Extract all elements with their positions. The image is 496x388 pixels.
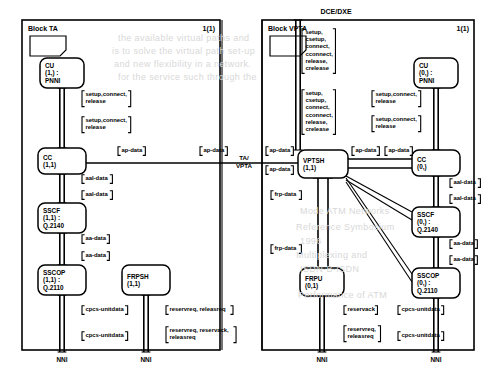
process-sscf-ta[interactable]: SSCF(1,1) :Q.2140 bbox=[38, 203, 86, 233]
process-cu-vpta[interactable]: CU(0,) :PNNI bbox=[414, 58, 458, 88]
bracket-right-icon bbox=[143, 147, 146, 156]
bracket-left-icon bbox=[344, 306, 347, 315]
signal-name: release bbox=[375, 123, 396, 129]
background-bleed-text: ISDN-B-ISDN bbox=[300, 264, 359, 274]
signal-name: ap-data bbox=[269, 166, 291, 172]
signal-name: aa-data bbox=[85, 235, 106, 241]
signal-label-ta-cc-ap-out: ap-data bbox=[118, 147, 145, 156]
signal-label-ta-ap-far: ap-data bbox=[200, 147, 227, 156]
signal-label-vpta-ap-mid-2: ap-data bbox=[385, 147, 412, 156]
signal-name: csetup, bbox=[305, 36, 326, 42]
signal-label-ta-res-1: reservreq, releasreq bbox=[166, 306, 233, 315]
bracket-right-icon bbox=[291, 147, 294, 156]
signal-label-vpta-aal-1: aal-data bbox=[450, 179, 480, 188]
process-sscf-vpta[interactable]: SSCF(0,) :Q.2140 bbox=[412, 207, 460, 237]
bracket-right-icon bbox=[333, 90, 336, 135]
process-label: PNNI bbox=[419, 77, 434, 84]
signal-name: release bbox=[85, 124, 106, 130]
process-cu-ta[interactable]: CU(1,) :PNNI bbox=[40, 58, 84, 88]
signal-label-ta-cu-cc-1: setup,connect,release bbox=[82, 91, 131, 107]
signal-name: releasreq bbox=[169, 334, 196, 340]
signal-name: cconnect, bbox=[305, 51, 333, 57]
bracket-right-icon bbox=[233, 327, 236, 343]
bracket-left-icon bbox=[271, 191, 274, 200]
signal-name: connect, bbox=[305, 104, 330, 110]
signal-name: aal-data bbox=[453, 195, 476, 201]
process-label: FRPU bbox=[305, 275, 323, 282]
background-bleed-text: Multiplexing and bbox=[296, 250, 367, 260]
signal-name: cpcs-unitdata bbox=[85, 332, 124, 338]
bracket-left-icon bbox=[82, 191, 85, 200]
bracket-left-icon bbox=[398, 306, 401, 315]
process-label: CU bbox=[419, 62, 429, 69]
bracket-left-icon bbox=[266, 166, 269, 175]
signal-name: release bbox=[375, 98, 396, 104]
bracket-right-icon bbox=[475, 256, 478, 265]
bracket-right-icon bbox=[418, 116, 421, 132]
bracket-right-icon bbox=[478, 179, 481, 188]
process-label: Q.2110 bbox=[43, 284, 64, 292]
bracket-right-icon bbox=[107, 252, 110, 261]
signal-label-vpta-cu-cc-1: setup,connect,release bbox=[372, 91, 421, 107]
bracket-left-icon bbox=[450, 195, 453, 204]
bracket-left-icon bbox=[372, 116, 375, 132]
process-label: SSCOP bbox=[43, 269, 66, 276]
bracket-left-icon bbox=[82, 91, 85, 107]
bracket-right-icon bbox=[125, 332, 128, 341]
bracket-right-icon bbox=[125, 306, 128, 315]
background-bleed-text: is to solve the virtual path set-up bbox=[112, 46, 255, 56]
process-sscop-ta[interactable]: SSCOP(1,1) :Q.2110 bbox=[38, 265, 86, 295]
signal-label-vpta-resack: reservack bbox=[344, 306, 377, 315]
block-title-block-vpta: Block VPTA bbox=[268, 25, 307, 32]
bracket-right-icon bbox=[475, 240, 478, 249]
bracket-right-icon bbox=[441, 306, 444, 315]
signal-name: reservack bbox=[347, 306, 375, 312]
signal-name: aal-data bbox=[453, 179, 476, 185]
signal-name: setup, bbox=[305, 90, 323, 96]
signal-name: ap-data bbox=[121, 147, 143, 153]
process-label: Q.2140 bbox=[43, 222, 64, 230]
signal-label-ta-cu-cc-2: setup,connect,release bbox=[82, 117, 131, 133]
process-label: FRPSH bbox=[127, 273, 149, 280]
signal-name: frp-data bbox=[274, 245, 297, 251]
signal-label-vpta-aal-2: aal-data bbox=[450, 195, 480, 204]
process-cc-ta[interactable]: CC(1,1) bbox=[38, 148, 86, 174]
background-bleed-text: Reference Symbosium bbox=[296, 222, 395, 232]
bracket-right-icon bbox=[375, 306, 378, 315]
signal-name: setup,connect, bbox=[85, 117, 127, 123]
bracket-left-icon bbox=[82, 332, 85, 341]
process-label: (0,) bbox=[417, 163, 427, 171]
signal-name: setup,connect, bbox=[375, 91, 417, 97]
signal-label-vpta-sig-1: setup,csetup,connect,cconnect,release,cr… bbox=[302, 29, 335, 74]
signal-name: setup,connect, bbox=[375, 116, 417, 122]
process-label: (0,1) bbox=[305, 282, 318, 290]
process-label: (1,1) bbox=[303, 164, 316, 172]
signal-name: aa-data bbox=[85, 252, 106, 258]
bracket-left-icon bbox=[302, 90, 305, 135]
signal-label-ta-aa-1: aa-data bbox=[82, 235, 109, 244]
background-bleed-text: 1996 bbox=[300, 236, 322, 246]
signal-name: ap-data bbox=[388, 147, 410, 153]
signal-label-vpta-cpcs-2: cpcs-unitdata bbox=[398, 332, 444, 341]
bracket-left-icon bbox=[82, 306, 85, 315]
process-label: CC bbox=[417, 156, 427, 163]
process-label: SSCF bbox=[43, 207, 60, 214]
process-label: Q.2140 bbox=[417, 226, 438, 234]
signal-name: setup,connect, bbox=[85, 91, 127, 97]
bracket-left-icon bbox=[271, 245, 274, 254]
process-vptsh-vpta[interactable]: VPTSH(1,1) bbox=[298, 150, 348, 178]
background-bleed-text: Performance of ATM bbox=[298, 290, 387, 300]
process-label: (1,1) bbox=[43, 161, 56, 169]
signal-name: reservreq, bbox=[347, 326, 376, 332]
bracket-left-icon bbox=[166, 306, 169, 315]
process-sscop-vpta[interactable]: SSCOP(0,) :Q.2110 bbox=[412, 268, 460, 298]
process-frpsh-ta[interactable]: FRPSH(1,1) bbox=[122, 265, 170, 295]
page-header-label: DCE/DXE bbox=[320, 8, 351, 15]
process-label: CU bbox=[45, 62, 55, 69]
bracket-right-icon bbox=[110, 191, 113, 200]
signal-name: crelease bbox=[305, 65, 329, 71]
bracket-left-icon bbox=[166, 327, 169, 343]
bracket-left-icon bbox=[82, 235, 85, 244]
process-cc-vpta[interactable]: CC(0,) bbox=[412, 150, 460, 176]
page-number-block-vpta: 1(1) bbox=[457, 25, 469, 33]
